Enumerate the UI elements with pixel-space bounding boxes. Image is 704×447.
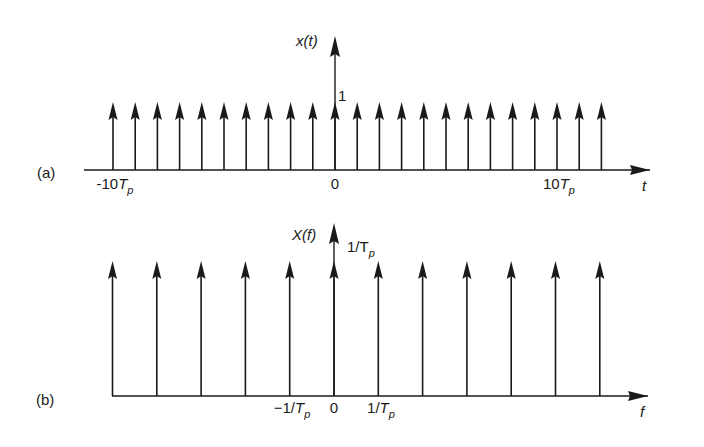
impulse-stems-a bbox=[109, 102, 606, 170]
X-of-f-axis-arrowhead bbox=[329, 223, 339, 244]
tick-label: 0 bbox=[330, 399, 338, 416]
panel-a-time-domain: (a) x(t) t 1 -10Tp010Tp bbox=[37, 32, 650, 196]
tick-labels-b: −1/Tp01/Tp bbox=[274, 399, 395, 420]
amplitude-label-a: 1 bbox=[338, 87, 346, 104]
t-axis-arrowhead bbox=[630, 165, 650, 175]
f-axis-arrowhead bbox=[628, 391, 648, 401]
panel-label-b: (b) bbox=[36, 391, 54, 408]
y-axis-label-a: x(t) bbox=[295, 32, 318, 49]
panel-b-frequency-domain: (b) X(f) f 1/Tp −1/Tp01/Tp bbox=[36, 223, 648, 420]
x-axis-label-a: t bbox=[642, 177, 647, 194]
amplitude-label-b: 1/Tp bbox=[347, 238, 375, 259]
tick-label: −1/Tp bbox=[274, 399, 311, 420]
tick-label: 0 bbox=[331, 175, 339, 192]
impulse-train-diagram: (a) x(t) t 1 -10Tp010Tp (b) X(f) f 1/Tp … bbox=[0, 0, 704, 447]
x-of-t-axis-arrowhead bbox=[330, 36, 340, 57]
x-axis-label-b: f bbox=[640, 403, 646, 420]
tick-label: 1/Tp bbox=[367, 399, 395, 420]
y-axis-label-b: X(f) bbox=[291, 226, 316, 243]
tick-label: 10Tp bbox=[543, 175, 575, 196]
panel-label-a: (a) bbox=[37, 164, 55, 181]
impulse-stems-b bbox=[108, 261, 604, 396]
tick-labels-a: -10Tp010Tp bbox=[97, 175, 575, 196]
tick-label: -10Tp bbox=[97, 175, 134, 196]
